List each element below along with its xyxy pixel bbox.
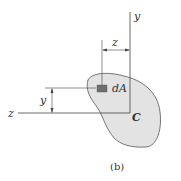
centroid-label: C <box>132 111 141 124</box>
z-axis-label: z <box>7 107 14 120</box>
y-dim-arrow-top <box>51 88 54 93</box>
y-dim-arrow-bottom <box>51 108 54 113</box>
z-dim-arrow-right <box>125 49 130 52</box>
y-dimension-label: y <box>39 94 47 107</box>
z-dimension-label: z <box>111 36 118 49</box>
figure-caption: (b) <box>110 161 124 172</box>
z-dim-arrow-left <box>102 49 107 52</box>
dA-label: dA <box>112 82 127 95</box>
y-axis-label: y <box>133 10 141 23</box>
cross-section-diagram: y z z y dA C (b) <box>0 0 181 181</box>
area-element-dA <box>97 85 107 92</box>
